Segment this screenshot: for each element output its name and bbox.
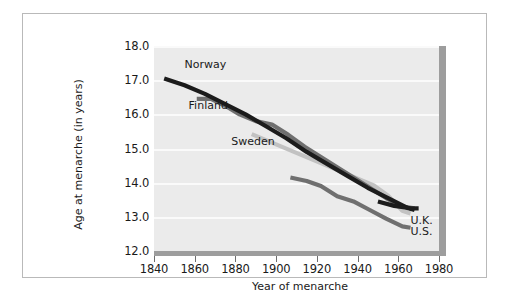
series-label-us: U.S. xyxy=(411,225,433,238)
series-label-sweden: Sweden xyxy=(231,135,274,148)
y-axis-title: Age at menarche (in years) xyxy=(72,60,85,250)
series-label-finland: Finland xyxy=(189,99,228,112)
figure-frame: 12.013.014.015.016.017.018.0 18401860188… xyxy=(22,13,487,278)
x-axis-title: Year of menarche xyxy=(154,280,446,293)
series-label-norway: Norway xyxy=(185,58,227,71)
series-line-sweden xyxy=(252,134,411,213)
